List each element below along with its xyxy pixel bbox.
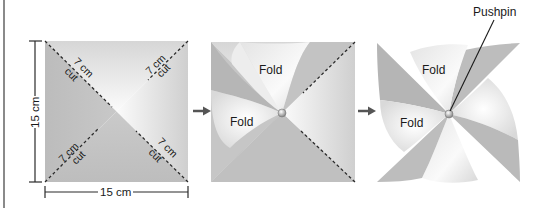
fold-label: Fold: [259, 63, 282, 77]
pushpin-label: Pushpin: [473, 5, 516, 19]
width-label: 15 cm: [100, 186, 131, 198]
step-2-partial-fold: Fold Fold: [211, 42, 355, 182]
pin-head-icon: [278, 109, 286, 117]
pinwheel-diagram: 7 cm cut 7 cm cut 7 cm cut 7 cm cut 15 c…: [0, 0, 548, 208]
step-arrow-icon: [193, 107, 211, 116]
step-arrow-icon: [358, 107, 376, 116]
pin-head-icon: [445, 110, 453, 118]
height-label: 15 cm: [29, 97, 41, 128]
step-1-square: 7 cm cut 7 cm cut 7 cm cut 7 cm cut 15 c…: [29, 41, 188, 198]
fold-label: Fold: [422, 63, 445, 77]
step-3-pinwheel: Pushpin Fold Fold: [377, 5, 520, 183]
fold-label: Fold: [400, 116, 423, 130]
fold-label: Fold: [230, 115, 253, 129]
